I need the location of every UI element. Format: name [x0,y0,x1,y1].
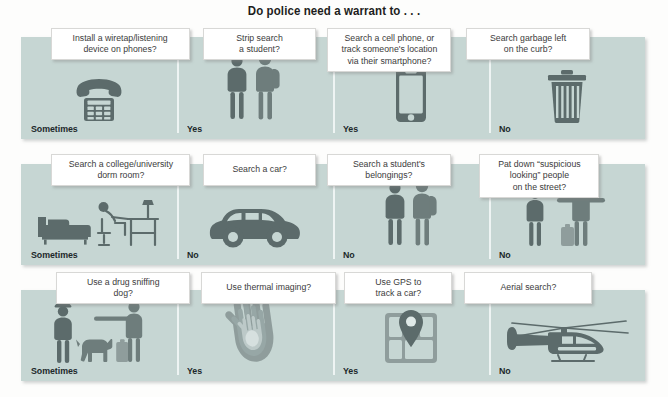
officer-and-backpack-student-icon [333,178,489,249]
question-text: Pat down “suspiciouslooking” peopleon th… [498,159,580,193]
dorm-room-icon [21,178,177,249]
page-title: Do police need a warrant to . . . [27,4,642,18]
helicopter-icon [489,304,645,365]
thermal-hand-icon [177,304,333,365]
question-card-1-1[interactable]: Install a wiretap/listeningdevice on pho… [51,28,190,60]
question-card-1-2[interactable]: Strip searcha student? [203,28,316,60]
answer-label: No [499,249,511,260]
answer-label: Sometimes [31,365,78,376]
question-text: Strip searcha student? [236,33,283,56]
desk-telephone-icon [21,51,177,123]
question-text: Use thermal imaging? [226,282,311,293]
question-text: Use GPS totrack a car? [375,277,421,300]
question-card-2-3[interactable]: Search a student'sbelongings? [327,154,451,186]
officer-and-student-icon [177,51,333,123]
question-text: Search a cell phone, ortrack someone's l… [341,33,437,67]
question-text: Install a wiretap/listeningdevice on pho… [73,33,168,56]
answer-label: Sometimes [31,249,78,260]
police-dog-icon [21,304,177,365]
answer-label: Sometimes [31,123,78,134]
answer-label: Yes [343,365,358,376]
question-card-2-1[interactable]: Search a college/universitydorm room? [51,154,190,186]
answer-label: No [499,123,511,134]
question-card-3-2[interactable]: Use thermal imaging? [201,272,336,304]
question-card-1-3[interactable]: Search a cell phone, ortrack someone's l… [327,28,451,72]
question-text: Search a student'sbelongings? [353,159,425,182]
car-icon [177,178,333,249]
question-text: Search a car? [232,164,286,175]
question-card-3-1[interactable]: Use a drug sniffingdog? [56,272,190,304]
answer-label: No [187,249,199,260]
answer-label: Yes [187,123,202,134]
question-text: Aerial search? [500,282,556,293]
answer-label: Yes [187,365,202,376]
answer-label: No [343,249,355,260]
gps-map-pin-icon [333,304,489,365]
question-text: Search a college/universitydorm room? [68,159,172,182]
answer-label: No [499,365,511,376]
question-card-2-4[interactable]: Pat down “suspiciouslooking” peopleon th… [479,154,599,198]
answer-label: Yes [343,123,358,134]
question-card-1-4[interactable]: Search garbage lefton the curb? [466,28,590,60]
question-text: Use a drug sniffingdog? [87,277,160,300]
question-card-3-3[interactable]: Use GPS totrack a car? [344,272,452,304]
trash-can-icon [489,51,645,123]
question-text: Search garbage lefton the curb? [490,33,566,56]
question-card-3-4[interactable]: Aerial search? [464,272,592,304]
question-card-2-2[interactable]: Search a car? [203,154,316,186]
